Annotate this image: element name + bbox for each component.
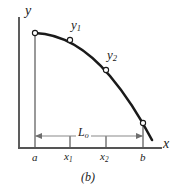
- x-axis-label: x: [163, 137, 169, 151]
- tick-label-a: a: [32, 152, 38, 163]
- tick-label-x2: x2: [100, 151, 109, 162]
- dimension-arrowhead-right: [136, 133, 143, 139]
- curve-marker-point-x2: [103, 67, 108, 72]
- curve-label-y1: y1: [71, 18, 81, 31]
- curve-label-y1-sub: 1: [77, 23, 81, 33]
- tick-label-b-base: b: [140, 151, 146, 163]
- curve-label-y1-base: y: [71, 17, 77, 32]
- y-axis-label: y: [25, 4, 31, 18]
- curve-marker-point-b: [140, 120, 145, 125]
- curve-label-y2-sub: 2: [113, 53, 117, 63]
- curve-label-y2: y2: [107, 48, 117, 61]
- curve-marker-point-x1: [67, 37, 72, 42]
- tick-label-x1: x1: [64, 151, 73, 162]
- dimension-label-sub: o: [85, 131, 89, 140]
- figure-caption: (b): [0, 170, 176, 185]
- curve-marker-point-a: [32, 30, 37, 35]
- figure-canvas: [0, 0, 176, 194]
- tick-label-x1-sub: 1: [69, 156, 73, 164]
- dimension-label-base: L: [78, 125, 85, 139]
- tick-label-x2-sub: 2: [105, 156, 109, 164]
- tick-label-b: b: [140, 152, 146, 163]
- tick-label-a-base: a: [32, 151, 38, 163]
- dimension-arrowhead-left: [35, 133, 42, 139]
- figure-container: y x y1 y2 Lo a x1 x2 b (b): [0, 0, 176, 194]
- curve-label-y2-base: y: [107, 47, 113, 62]
- curve-point-markers-group: [32, 30, 145, 125]
- dimension-label-lo: Lo: [76, 126, 91, 138]
- curve-path: [35, 33, 152, 140]
